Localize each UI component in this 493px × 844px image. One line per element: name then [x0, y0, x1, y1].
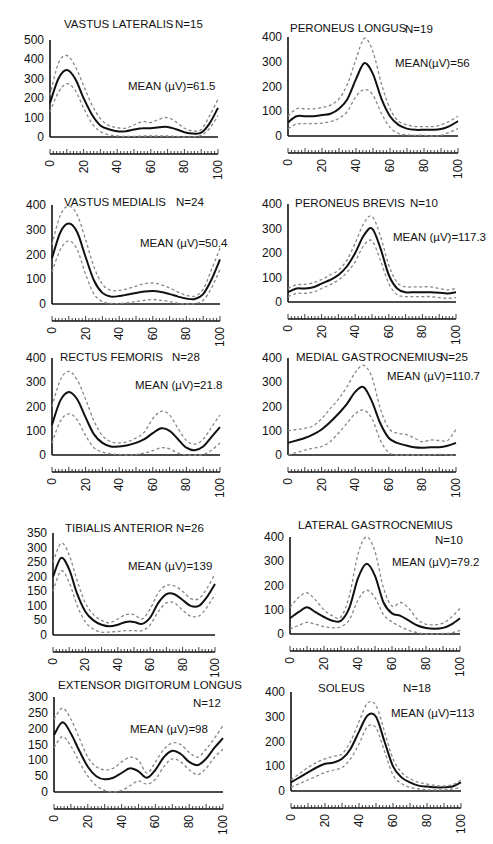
- x-tick-label: 40: [349, 159, 363, 173]
- y-tick-label: 250: [27, 555, 47, 569]
- sd-band-line: [288, 410, 456, 455]
- x-tick-label: 20: [81, 815, 95, 829]
- emg-plot: 0100200300400020406080100SOLEUSN=18MEAN …: [245, 680, 493, 844]
- sd-band-line: [288, 240, 456, 298]
- x-tick-label: 0: [281, 478, 295, 485]
- x-tick-label: 60: [382, 325, 396, 339]
- x-tick-label: 80: [177, 160, 191, 174]
- x-tick-label: 60: [143, 658, 157, 672]
- y-tick-label: 350: [27, 526, 47, 540]
- mean-amplitude-label: MEAN (µV)=117.3: [393, 231, 486, 243]
- x-tick-label: 20: [77, 160, 91, 174]
- sample-size-label: N=10: [410, 197, 438, 209]
- emg-panel-extensor-digitorum-longus: 050100150200250300020406080100EXTENSOR D…: [0, 680, 248, 844]
- x-tick-label: 80: [415, 478, 429, 492]
- sd-band-line: [291, 725, 461, 790]
- panel-title: VASTUS MEDIALIS: [64, 196, 166, 208]
- mean-emg-line: [52, 224, 220, 300]
- y-tick-label: 200: [262, 80, 282, 94]
- y-tick-label: 300: [26, 223, 46, 237]
- emg-plot: 0100200300400020406080100PERONEUS LONGUS…: [245, 0, 493, 170]
- sample-size-label: N=18: [403, 682, 431, 694]
- emg-plot: 0100200300400020406080100PERONEUS BREVIS…: [245, 180, 493, 350]
- emg-plot: 050100150200250300020406080100EXTENSOR D…: [0, 680, 248, 844]
- x-tick-label: 40: [348, 478, 362, 492]
- y-tick-label: 200: [264, 579, 284, 593]
- mean-amplitude-label: MEAN (µV)=79.2: [392, 556, 479, 568]
- y-tick-label: 300: [28, 690, 48, 704]
- sample-size-label: N=19: [405, 23, 433, 35]
- emg-plot: 0100200300400020406080100LATERAL GASTROC…: [245, 510, 493, 680]
- y-tick-label: 300: [262, 222, 282, 236]
- y-tick-label: 200: [26, 400, 46, 414]
- mean-amplitude-label: MEAN(µV)=56: [395, 57, 470, 69]
- y-tick-label: 300: [262, 55, 282, 69]
- x-tick-label: 40: [112, 327, 126, 341]
- y-tick-label: 200: [24, 91, 44, 105]
- x-tick-label: 40: [112, 478, 126, 492]
- y-tick-label: 400: [264, 530, 284, 544]
- x-tick-label: 80: [179, 478, 193, 492]
- y-tick-label: 100: [28, 753, 48, 767]
- x-tick-label: 20: [78, 658, 92, 672]
- y-tick-label: 0: [39, 448, 46, 462]
- x-tick-label: 40: [348, 325, 362, 339]
- sd-band-line: [50, 55, 218, 131]
- x-tick-label: 60: [386, 814, 400, 828]
- sample-size-label: N=25: [440, 351, 468, 363]
- mean-emg-line: [52, 392, 220, 450]
- y-tick-label: 250: [28, 706, 48, 720]
- x-tick-label: 80: [417, 159, 431, 173]
- x-tick-label: 80: [419, 657, 433, 671]
- mean-amplitude-label: MEAN (µV)=61.5: [128, 80, 215, 92]
- x-tick-label: 20: [315, 478, 329, 492]
- x-tick-label: 60: [146, 478, 160, 492]
- panel-title: SOLEUS: [318, 682, 365, 694]
- x-tick-label: 60: [385, 657, 399, 671]
- y-tick-label: 400: [24, 52, 44, 66]
- y-tick-label: 0: [278, 784, 285, 798]
- x-tick-label: 100: [451, 159, 465, 179]
- panel-title: TIBIALIS ANTERIOR: [65, 522, 173, 534]
- x-tick-label: 0: [47, 815, 61, 822]
- x-tick-label: 0: [45, 327, 59, 334]
- y-tick-label: 500: [24, 33, 44, 47]
- y-tick-label: 200: [265, 735, 285, 749]
- x-tick-label: 100: [208, 658, 222, 678]
- x-tick-label: 0: [284, 814, 298, 821]
- y-tick-label: 200: [262, 400, 282, 414]
- y-tick-label: 0: [277, 627, 284, 641]
- x-tick-label: 80: [182, 815, 196, 829]
- y-tick-label: 400: [265, 685, 285, 699]
- y-tick-label: 50: [35, 769, 49, 783]
- sd-band-line: [288, 38, 458, 127]
- x-tick-label: 60: [146, 327, 160, 341]
- x-tick-label: 100: [211, 160, 225, 180]
- sd-band-line: [52, 241, 220, 304]
- x-tick-label: 100: [453, 657, 467, 677]
- y-tick-label: 0: [275, 295, 282, 309]
- x-tick-label: 0: [281, 159, 295, 166]
- y-tick-label: 100: [26, 424, 46, 438]
- sample-size-label: N=28: [172, 351, 200, 363]
- y-tick-label: 300: [265, 710, 285, 724]
- emg-panel-vastus-lateralis: 0100200300400500020406080100VASTUS LATER…: [0, 0, 248, 170]
- sample-size-label: N=26: [176, 522, 204, 534]
- y-tick-label: 300: [262, 375, 282, 389]
- x-tick-label: 80: [415, 325, 429, 339]
- panel-title: RECTUS FEMORIS: [60, 351, 163, 363]
- y-tick-label: 400: [262, 30, 282, 44]
- y-tick-label: 0: [275, 129, 282, 143]
- x-tick-label: 60: [382, 478, 396, 492]
- sample-size-label: N=12: [193, 697, 221, 709]
- y-tick-label: 300: [264, 554, 284, 568]
- sample-size-label: N=24: [176, 196, 204, 208]
- panel-title: VASTUS LATERALIS: [64, 18, 174, 30]
- y-tick-label: 200: [262, 246, 282, 260]
- panel-title: LATERAL GASTROCNEMIUS: [298, 519, 453, 531]
- emg-plot: 050100150200250300350020406080100TIBIALI…: [0, 510, 248, 680]
- emg-plot: 0100200300400500020406080100VASTUS LATER…: [0, 0, 248, 170]
- x-tick-label: 0: [43, 160, 57, 167]
- panel-title: EXTENSOR DIGITORUM LONGUS: [58, 679, 242, 691]
- emg-panel-peroneus-longus: 0100200300400020406080100PERONEUS LONGUS…: [245, 0, 493, 170]
